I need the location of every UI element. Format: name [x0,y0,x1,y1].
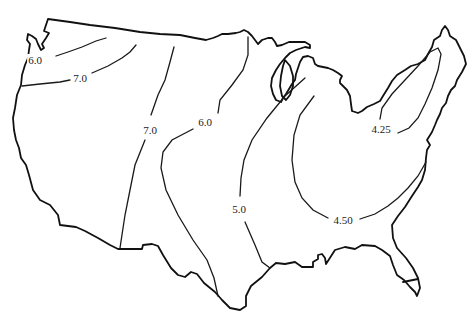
contour-label-west-7-0: 7.0 [142,124,158,136]
contour-label-nw-6-0: 6.0 [27,54,43,66]
us-outline [13,19,466,310]
contour-label-central-6-0: 6.0 [197,116,213,128]
contour-northeast-4-25 [380,48,441,133]
contour-label-south-5-0: 5.0 [231,203,247,215]
contour-label-northeast-4-25: 4.25 [370,123,391,135]
contour-label-nw-7-0: 7.0 [72,72,88,84]
contour-label-southeast-4-50: 4.50 [332,214,353,226]
contour-central-6-0 [161,37,248,296]
contour-map [0,0,476,317]
contour-southeast-4-50 [292,96,426,219]
contour-south-5-0 [240,78,305,268]
